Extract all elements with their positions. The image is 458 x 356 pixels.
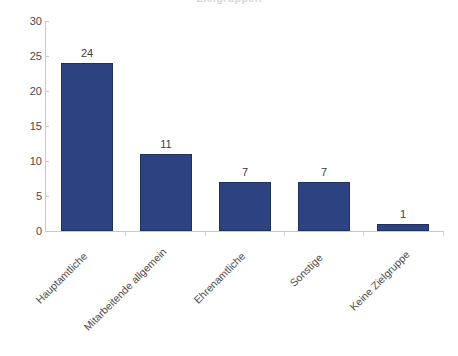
y-tick-label: 30 bbox=[16, 16, 42, 27]
bar-mitarbeitende-allgemein[interactable] bbox=[140, 154, 192, 231]
y-tick-label: 0 bbox=[16, 226, 42, 237]
bar-value-label: 11 bbox=[140, 139, 192, 150]
x-tick-label-mitarbeitende-allgemein: Mitarbeitende allgemein bbox=[82, 246, 168, 332]
y-tick-label: 5 bbox=[16, 191, 42, 202]
bar-hauptamtliche[interactable] bbox=[61, 63, 113, 231]
bar-ehrenamtliche[interactable] bbox=[219, 182, 271, 231]
y-tick-label: 25 bbox=[16, 51, 42, 62]
bar-value-label: 24 bbox=[61, 48, 113, 59]
x-tick-mark bbox=[125, 232, 126, 236]
x-tick-label-hauptamtliche: Hauptamtliche bbox=[34, 251, 89, 306]
x-tick-mark bbox=[205, 232, 206, 236]
bar-sonstige[interactable] bbox=[298, 182, 350, 231]
x-tick-mark bbox=[443, 232, 444, 236]
x-tick-label-sonstige: Sonstige bbox=[288, 252, 324, 288]
bar-chart: Zielgruppen 30 25 20 15 10 5 0 24 11 7 7… bbox=[0, 0, 458, 356]
x-tick-mark bbox=[284, 232, 285, 236]
x-tick-label-keine-zielgruppe: Keine Zielgruppe bbox=[348, 249, 412, 313]
y-tick-label: 20 bbox=[16, 86, 42, 97]
x-axis-line bbox=[45, 231, 444, 232]
y-tick-label: 10 bbox=[16, 156, 42, 167]
bar-value-label: 7 bbox=[219, 167, 271, 178]
y-tick-label: 15 bbox=[16, 121, 42, 132]
clipped-chart-title: Zielgruppen bbox=[0, 0, 458, 4]
x-tick-label-ehrenamtliche: Ehrenamtliche bbox=[192, 251, 247, 306]
y-axis-line bbox=[45, 21, 46, 232]
y-axis-tick-labels: 30 25 20 15 10 5 0 bbox=[10, 21, 42, 231]
bar-value-label: 7 bbox=[298, 167, 350, 178]
bar-keine-zielgruppe[interactable] bbox=[377, 224, 429, 231]
bar-value-label: 1 bbox=[377, 209, 429, 220]
x-tick-mark bbox=[363, 232, 364, 236]
